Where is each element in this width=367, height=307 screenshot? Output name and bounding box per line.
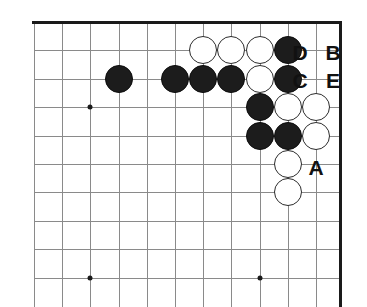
white-stone[interactable] [246, 36, 274, 64]
star-point-lower-left-icon [88, 275, 93, 280]
board-top-edge [32, 21, 342, 24]
white-stone[interactable] [274, 178, 302, 206]
white-stone[interactable] [302, 122, 330, 150]
black-stone[interactable] [246, 93, 274, 121]
grid-line-horizontal-8 [34, 249, 340, 250]
label-a: A [308, 157, 323, 178]
grid-line-horizontal-7 [34, 221, 340, 222]
label-d: D [292, 42, 307, 63]
black-stone[interactable] [189, 65, 217, 93]
label-b: B [325, 42, 340, 63]
black-stone[interactable] [105, 65, 133, 93]
black-stone[interactable] [217, 65, 245, 93]
white-stone[interactable] [217, 36, 245, 64]
star-point-upper-left-icon [88, 105, 93, 110]
black-stone[interactable] [161, 65, 189, 93]
board-right-edge [339, 21, 342, 307]
label-e: E [326, 70, 340, 91]
label-c: C [292, 70, 307, 91]
white-stone[interactable] [274, 93, 302, 121]
black-stone[interactable] [246, 122, 274, 150]
white-stone[interactable] [302, 93, 330, 121]
white-stone[interactable] [246, 65, 274, 93]
white-stone[interactable] [274, 150, 302, 178]
white-stone[interactable] [189, 36, 217, 64]
black-stone[interactable] [274, 122, 302, 150]
star-point-lower-right-icon [257, 275, 262, 280]
go-board-diagram: DBCEA [0, 0, 367, 307]
grid-line-horizontal-9 [34, 278, 340, 279]
